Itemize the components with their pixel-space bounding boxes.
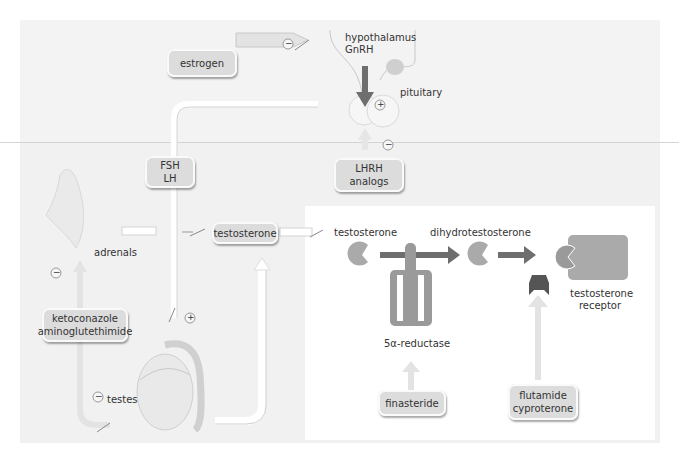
testosterone-box: testosterone <box>212 222 278 244</box>
pituitary-to-testes-path <box>174 104 318 318</box>
estrogen-arrow <box>236 33 308 47</box>
dht-label: dihydrotestosterone <box>430 226 531 239</box>
keto-testes-sign: − <box>95 390 103 403</box>
lh-label: LH <box>163 172 176 185</box>
keto-arrow-down <box>80 340 110 425</box>
estrogen-sign: − <box>285 37 293 50</box>
keto-arrow-up-head <box>73 260 87 272</box>
gnrh-sign: + <box>377 98 385 111</box>
testes-label: testes <box>107 393 138 406</box>
flutamide-box: flutamide cyproterone <box>508 384 578 420</box>
lhrh-arrow <box>358 128 372 150</box>
flutamide-blocker-icon <box>529 275 549 295</box>
adrenal-connector <box>122 227 156 235</box>
pineal-gland-icon <box>386 59 404 75</box>
flutamide-label: flutamide <box>519 389 567 402</box>
finasteride-box: finasteride <box>378 390 446 416</box>
testis-icon <box>137 354 193 430</box>
adrenals-label: adrenals <box>94 246 137 259</box>
adrenal-gland-icon <box>46 169 84 248</box>
receptor-label-line2: receptor <box>570 299 630 312</box>
lhrh-sign: − <box>385 138 393 151</box>
reductase-label: 5α-reductase <box>384 337 450 350</box>
testosterone-arrow-head <box>254 258 270 270</box>
dht-molecule-icon <box>468 241 488 265</box>
estrogen-label: estrogen <box>180 57 224 70</box>
testosterone-box-label: testosterone <box>213 227 276 240</box>
aminoglutethimide-label: aminoglutethimide <box>38 325 133 338</box>
testosterone-to-panel <box>280 228 312 236</box>
cyproterone-label: cyproterone <box>513 402 573 415</box>
keto-arrow-up-shaft <box>77 270 83 310</box>
estrogen-box: estrogen <box>167 49 237 77</box>
receptor-icon <box>568 235 628 280</box>
fsh-lh-sign: + <box>187 311 195 324</box>
testosterone-molecule-icon <box>348 241 368 265</box>
keto-adrenal-sign: − <box>53 266 61 279</box>
lhrh-label: LHRH <box>355 162 383 175</box>
sign-circles <box>51 39 393 402</box>
lhrh-analogs-box: LHRH analogs <box>334 158 404 192</box>
gnrh-arrow-shaft <box>362 66 368 94</box>
ketoconazole-box: ketoconazole aminoglutethimide <box>42 308 128 342</box>
analogs-label: analogs <box>349 175 388 188</box>
pituitary-label: pituitary <box>400 86 442 99</box>
finasteride-label: finasteride <box>385 397 438 410</box>
testosterone-molecule-label: testosterone <box>334 226 397 239</box>
testes-to-testosterone-path <box>215 268 262 421</box>
fsh-lh-box: FSH LH <box>145 156 195 188</box>
ketoconazole-label: ketoconazole <box>52 312 118 325</box>
gnrh-label: GnRH <box>345 43 374 56</box>
fsh-label: FSH <box>160 159 179 172</box>
